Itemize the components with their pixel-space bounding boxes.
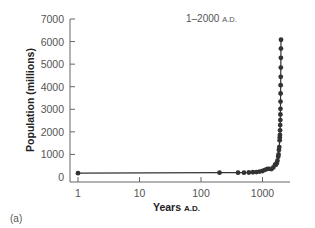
x-tick-label: 100 — [192, 187, 210, 199]
data-point — [278, 55, 283, 60]
data-point — [278, 99, 283, 104]
y-tick-label: 3000 — [41, 103, 65, 115]
y-tick-label: 4000 — [41, 81, 65, 93]
data-point — [279, 46, 284, 51]
y-tick-label: 0 — [58, 171, 64, 183]
x-tick-label: 1000 — [251, 187, 275, 199]
data-point — [76, 171, 81, 176]
y-tick-label: 2000 — [41, 126, 65, 138]
axes — [70, 19, 290, 182]
data-point — [278, 112, 283, 117]
y-tick-label: 6000 — [41, 36, 65, 48]
data-point — [236, 170, 241, 175]
data-point — [278, 83, 283, 88]
x-axis-label: Years A.D. — [153, 201, 200, 213]
data-series — [76, 37, 284, 175]
data-point — [246, 170, 251, 175]
data-point — [278, 65, 283, 70]
data-point — [278, 106, 283, 111]
chart-title: 1–2000 A.D. — [186, 13, 237, 24]
population-chart: 01000200030004000500060007000 1101001000… — [0, 0, 315, 228]
series-line — [78, 40, 281, 173]
data-point — [279, 37, 284, 42]
y-tick-label: 7000 — [41, 13, 65, 25]
data-point — [277, 145, 282, 150]
data-point — [278, 123, 283, 128]
panel-label: (a) — [10, 213, 22, 224]
y-tick-label: 5000 — [41, 58, 65, 70]
x-ticks: 1101001000 — [75, 177, 274, 199]
data-point — [278, 91, 283, 96]
data-point — [278, 133, 283, 138]
x-tick-label: 1 — [75, 187, 81, 199]
data-point — [217, 170, 222, 175]
data-point — [276, 152, 281, 157]
x-tick-label: 10 — [134, 187, 146, 199]
y-axis-label: Population (millions) — [24, 48, 36, 152]
data-point — [242, 170, 247, 175]
data-point — [275, 158, 280, 163]
data-point — [278, 74, 283, 79]
y-tick-label: 1000 — [41, 148, 65, 160]
data-point — [278, 118, 283, 123]
data-point — [278, 128, 283, 133]
